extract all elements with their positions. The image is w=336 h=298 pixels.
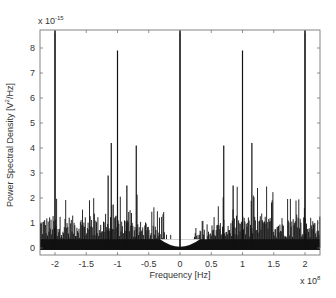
y-axis-ticks: 012345678 bbox=[30, 43, 320, 253]
psd-series bbox=[40, 31, 320, 251]
x-tick-label: 2 bbox=[302, 259, 307, 269]
x-tick-label: -0.5 bbox=[141, 259, 157, 269]
y-multiplier: x 10-15 bbox=[38, 15, 64, 26]
y-tick-label: 5 bbox=[30, 118, 35, 128]
y-axis-label: Power Spectral Density [V2/Hz] bbox=[4, 83, 15, 207]
psd-chart: -2-1.5-1-0.500.511.52 012345678 x 10-15 … bbox=[0, 0, 336, 298]
y-tick-label: 7 bbox=[30, 68, 35, 78]
x-tick-label: 0 bbox=[177, 259, 182, 269]
y-tick-label: 4 bbox=[30, 143, 35, 153]
x-tick-label: 1.5 bbox=[267, 259, 280, 269]
y-tick-label: 8 bbox=[30, 43, 35, 53]
x-axis-label: Frequency [Hz] bbox=[149, 270, 210, 280]
y-tick-label: 0 bbox=[30, 243, 35, 253]
x-tick-label: -2 bbox=[51, 259, 59, 269]
x-tick-label: -1.5 bbox=[78, 259, 94, 269]
x-tick-label: 0.5 bbox=[205, 259, 218, 269]
x-tick-label: -1 bbox=[113, 259, 121, 269]
y-tick-label: 2 bbox=[30, 193, 35, 203]
y-tick-label: 1 bbox=[30, 218, 35, 228]
x-tick-label: 1 bbox=[240, 259, 245, 269]
y-tick-label: 3 bbox=[30, 168, 35, 178]
y-tick-label: 6 bbox=[30, 93, 35, 103]
x-multiplier: x 108 bbox=[300, 275, 321, 286]
